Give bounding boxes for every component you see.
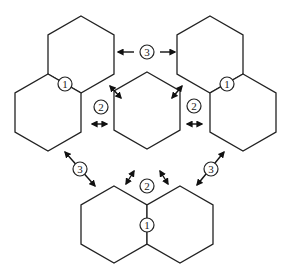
- badge-near-left: 2: [94, 100, 108, 114]
- hexagon-bottom-right: [147, 186, 213, 263]
- svg-text:3: 3: [144, 46, 150, 58]
- arrow-near-br-diag: [160, 171, 168, 184]
- svg-text:2: 2: [144, 180, 150, 192]
- badge-far-top: 3: [140, 45, 154, 59]
- svg-text:3: 3: [208, 163, 214, 175]
- svg-text:1: 1: [144, 219, 150, 231]
- badge-contact-top-right: 1: [220, 77, 234, 91]
- svg-text:1: 1: [62, 78, 68, 90]
- badge-far-left: 3: [73, 162, 87, 176]
- svg-text:1: 1: [224, 78, 230, 90]
- hexagon-diagram: 1 1 1 2 2 2 3 3 3: [0, 0, 289, 276]
- svg-text:2: 2: [191, 100, 197, 112]
- arrow-near-bl-diag: [126, 171, 134, 184]
- hexagon-center: [114, 72, 180, 149]
- badge-contact-top-left: 1: [58, 77, 72, 91]
- badge-near-right: 2: [187, 99, 201, 113]
- svg-text:3: 3: [77, 163, 83, 175]
- badge-contact-bottom: 1: [140, 218, 154, 232]
- svg-text:2: 2: [98, 101, 104, 113]
- badge-near-bottom: 2: [140, 179, 154, 193]
- hexagon-bottom-left: [81, 186, 147, 263]
- badge-far-right: 3: [204, 162, 218, 176]
